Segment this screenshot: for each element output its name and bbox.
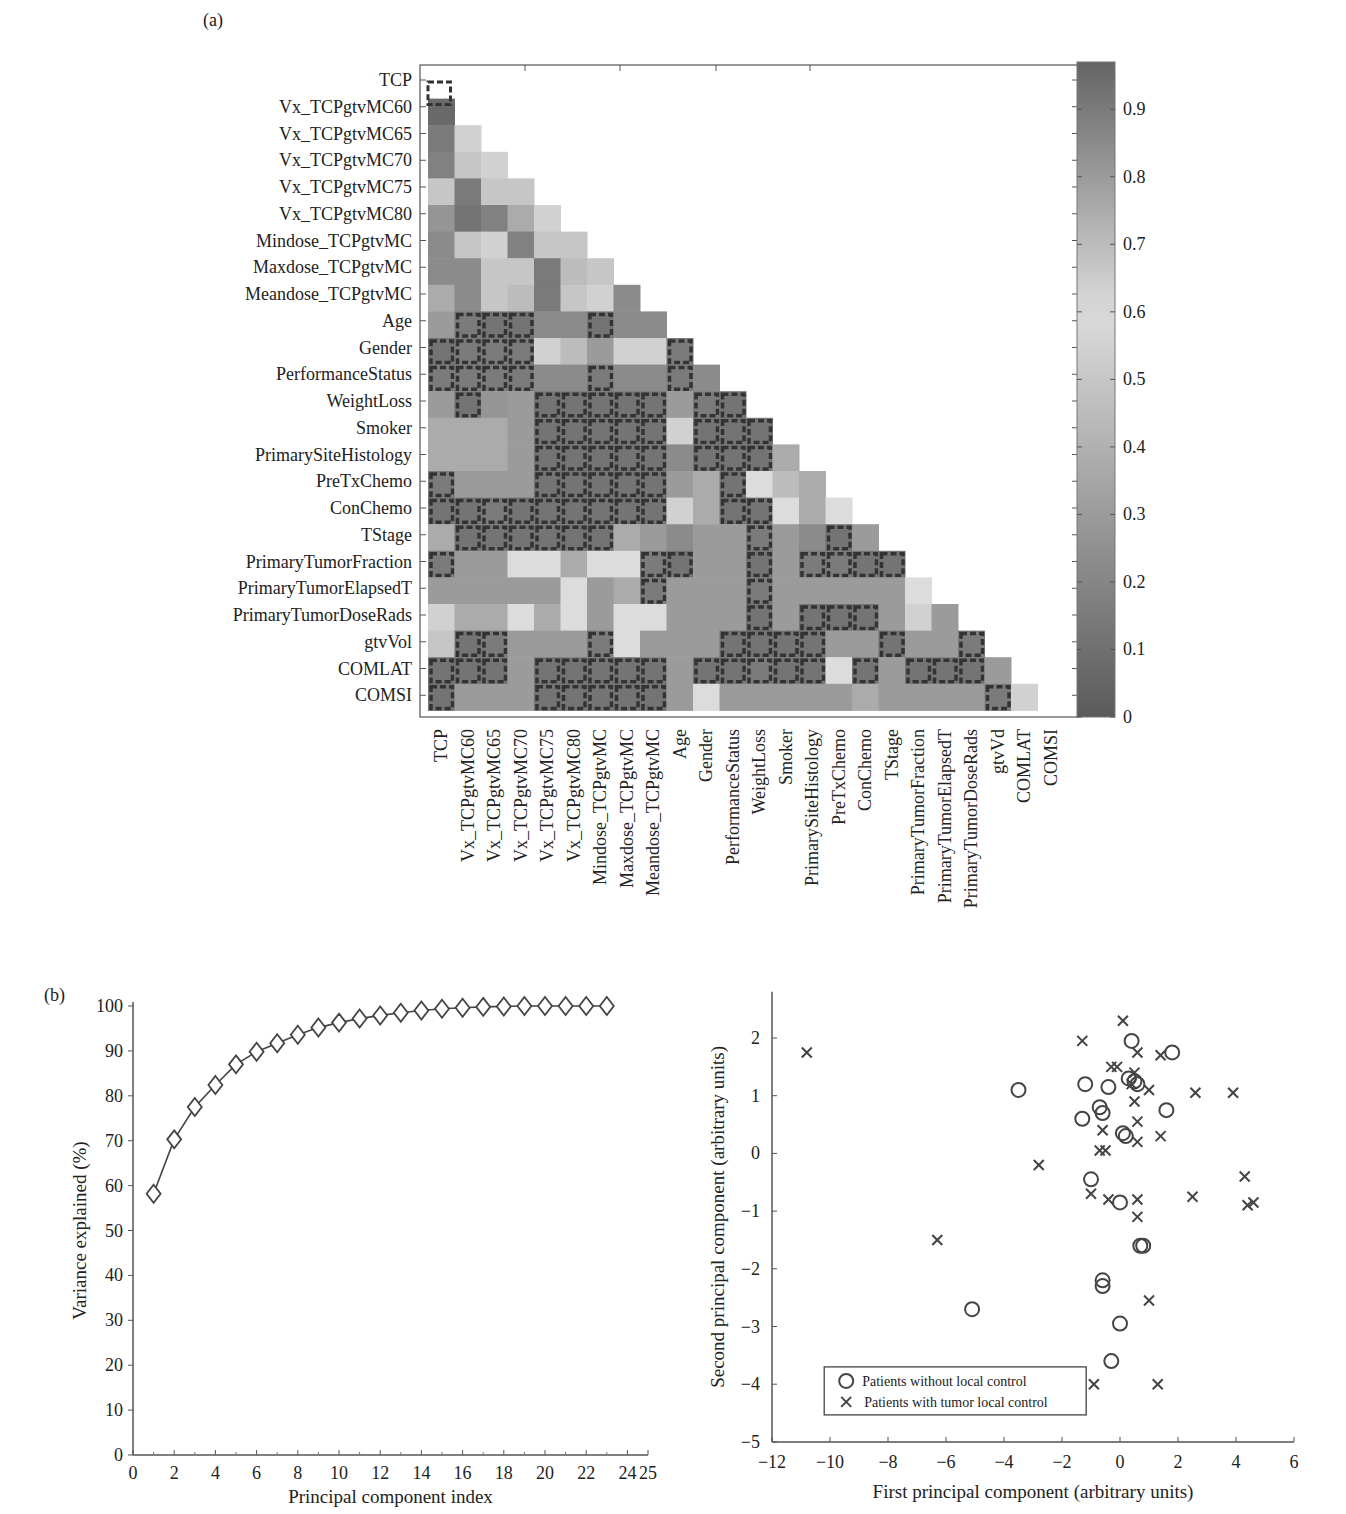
diamond-marker: [559, 997, 573, 1015]
y-tick-label: −2: [741, 1259, 760, 1279]
y-tick-label: −3: [741, 1317, 760, 1337]
heatmap-cell: [481, 418, 508, 445]
heatmap-cell: [640, 311, 667, 338]
colorbar-tick-label: 0.7: [1123, 234, 1146, 254]
x-tick-label: 6: [252, 1463, 261, 1483]
heatmap-cell: [428, 311, 455, 338]
heatmap-cell: [667, 471, 694, 498]
heatmap-cell: [587, 577, 614, 604]
circle-marker: [965, 1302, 979, 1316]
x-tick-label: 14: [412, 1463, 430, 1483]
heatmap-cell: [561, 604, 588, 631]
diamond-marker: [476, 998, 490, 1016]
heatmap-cell: [534, 232, 561, 259]
heatmap-cell: [799, 524, 826, 551]
x-tick-label: 4: [211, 1463, 220, 1483]
heatmap-row-label: Smoker: [356, 418, 412, 438]
heatmap-cell: [693, 551, 720, 578]
diamond-marker: [353, 1010, 367, 1028]
x-marker: [1156, 1050, 1166, 1060]
heatmap-row-label: COMSI: [355, 685, 412, 705]
heatmap-cell: [852, 524, 879, 551]
heatmap-cell: [720, 604, 747, 631]
heatmap-cell: [799, 471, 826, 498]
heatmap-cell: [640, 365, 667, 392]
x-marker: [1240, 1171, 1250, 1181]
heatmap-cell: [455, 285, 482, 312]
heatmap-row-label: PrimaryTumorDoseRads: [233, 605, 412, 625]
heatmap-col-label: gtvVd: [988, 729, 1008, 774]
y-tick-label: 2: [751, 1028, 760, 1048]
x-marker: [1089, 1379, 1099, 1389]
heatmap-col-label: PerformanceStatus: [723, 729, 743, 865]
heatmap-col-label: WeightLoss: [749, 729, 769, 815]
heatmap-row-label: Maxdose_TCPgtvMC: [253, 257, 412, 277]
heatmap-cell: [905, 604, 932, 631]
heatmap-cell: [455, 258, 482, 285]
heatmap-cell: [667, 577, 694, 604]
y-tick-label: 90: [105, 1041, 123, 1061]
heatmap-cell: [428, 205, 455, 232]
diamond-marker: [311, 1019, 325, 1037]
x-marker: [1130, 1096, 1140, 1106]
heatmap-cell: [455, 604, 482, 631]
colorbar-tick-label: 0.6: [1123, 302, 1146, 322]
diamond-marker: [147, 1185, 161, 1203]
variance-explained-chart: 0246810121416182022242501020304050607080…: [0, 975, 680, 1514]
heatmap-cell: [481, 285, 508, 312]
correlation-heatmap: TCPVx_TCPgtvMC60Vx_TCPgtvMC65Vx_TCPgtvMC…: [0, 0, 1346, 960]
y-tick-label: −1: [741, 1201, 760, 1221]
heatmap-cell: [561, 365, 588, 392]
heatmap-row-label: PrimarySiteHistology: [255, 445, 412, 465]
x-axis-label: First principal component (arbitrary uni…: [873, 1481, 1194, 1503]
heatmap-row-label: PrimaryTumorElapsedT: [238, 578, 412, 598]
heatmap-cell: [534, 258, 561, 285]
heatmap-cell: [667, 631, 694, 658]
heatmap-cell: [481, 444, 508, 471]
pca-scatter-plot: −12−10−8−6−4−20246−5−4−3−2−1012First pri…: [680, 975, 1346, 1514]
heatmap-cell: [614, 577, 641, 604]
diamond-marker: [229, 1055, 243, 1073]
heatmap-cell: [508, 631, 535, 658]
heatmap-cell: [905, 577, 932, 604]
diamond-marker: [414, 1001, 428, 1019]
heatmap-cell: [667, 391, 694, 418]
heatmap-cell: [455, 551, 482, 578]
heatmap-cell: [879, 577, 906, 604]
heatmap-col-label: Mindose_TCPgtvMC: [590, 729, 610, 885]
heatmap-cell: [773, 524, 800, 551]
heatmap-cell: [640, 631, 667, 658]
heatmap-cell: [799, 577, 826, 604]
x-tick-label: −6: [936, 1452, 955, 1472]
circle-marker: [1101, 1080, 1115, 1094]
heatmap-cell: [481, 684, 508, 711]
heatmap-row-label: TStage: [361, 525, 412, 545]
heatmap-row-label: ConChemo: [330, 498, 412, 518]
heatmap-cell: [455, 125, 482, 152]
y-tick-label: −4: [741, 1374, 760, 1394]
colorbar-tick-label: 0: [1123, 707, 1132, 727]
heatmap-col-label: ConChemo: [855, 729, 875, 811]
heatmap-col-label: COMSI: [1041, 729, 1061, 786]
heatmap-cell: [508, 391, 535, 418]
x-marker: [932, 1235, 942, 1245]
heatmap-row-label: Age: [382, 311, 412, 331]
heatmap-cell: [481, 178, 508, 205]
x-axis-label: Principal component index: [288, 1486, 493, 1507]
heatmap-col-label: Smoker: [776, 729, 796, 785]
heatmap-col-label: Gender: [696, 729, 716, 782]
colorbar: [1077, 62, 1115, 717]
heatmap-row-label: TCP: [379, 70, 412, 90]
heatmap-cell: [614, 311, 641, 338]
heatmap-cell: [481, 391, 508, 418]
x-marker: [1103, 1195, 1113, 1205]
heatmap-cell: [455, 418, 482, 445]
legend: Patients without local controlPatients w…: [824, 1367, 1086, 1415]
heatmap-cell: [587, 551, 614, 578]
heatmap-cell: [693, 577, 720, 604]
heatmap-cell: [1011, 684, 1038, 711]
diamond-marker: [291, 1026, 305, 1044]
colorbar-tick-label: 0.4: [1123, 437, 1146, 457]
heatmap-cell: [773, 471, 800, 498]
heatmap-cell: [481, 258, 508, 285]
